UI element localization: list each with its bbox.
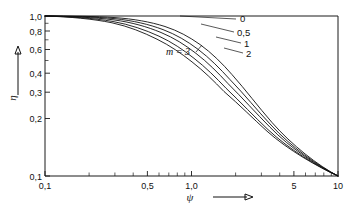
chart-figure: 1,0 0,8 0,6 0,4 0,3 0,2 0,1 bbox=[0, 0, 352, 205]
y-tick-label: 0,6 bbox=[29, 45, 42, 55]
x-tick-label: 1,0 bbox=[185, 181, 198, 191]
chart-svg: 1,0 0,8 0,6 0,4 0,3 0,2 0,1 bbox=[0, 0, 352, 205]
y-tick-label: 0,2 bbox=[29, 114, 42, 124]
x-tick-label: 10 bbox=[333, 181, 343, 191]
y-tick-label: 0,1 bbox=[29, 172, 42, 182]
y-axis-tick-labels: 1,0 0,8 0,6 0,4 0,3 0,2 0,1 bbox=[29, 12, 42, 182]
x-axis-title: ψ bbox=[187, 191, 194, 203]
x-axis-tick-labels: 0,1 0,5 1,0 5 10 bbox=[39, 181, 343, 191]
y-tick-label: 0,4 bbox=[29, 69, 42, 79]
leader-line-0p5 bbox=[201, 24, 234, 32]
x-axis-ticks bbox=[45, 171, 338, 176]
x-tick-label: 0,5 bbox=[141, 181, 154, 191]
x-tick-label: 0,1 bbox=[39, 181, 52, 191]
data-curves bbox=[45, 16, 338, 176]
x-axis-title-group: ψ bbox=[187, 191, 253, 203]
x-tick-label: 5 bbox=[291, 181, 296, 191]
leader-line-2 bbox=[224, 48, 243, 53]
curve-label-0p5: 0,5 bbox=[237, 27, 250, 38]
curve-label-m3: m = 3 bbox=[166, 46, 190, 57]
y-axis-title-group: η bbox=[6, 46, 21, 101]
y-axis-title: η bbox=[6, 95, 18, 100]
y-tick-label: 0,8 bbox=[29, 27, 42, 37]
curve-m-3 bbox=[45, 16, 338, 176]
y-axis-ticks bbox=[45, 16, 50, 176]
curve-label-0: 0 bbox=[240, 13, 245, 24]
y-tick-label: 1,0 bbox=[29, 12, 42, 22]
curve-label-2: 2 bbox=[246, 48, 251, 59]
y-tick-label: 0,3 bbox=[29, 88, 42, 98]
